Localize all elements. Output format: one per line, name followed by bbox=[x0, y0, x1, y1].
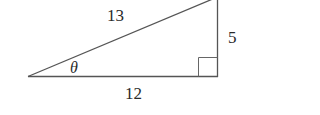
adjacent-label: 12 bbox=[125, 85, 142, 102]
hypotenuse-label: 13 bbox=[107, 7, 124, 24]
right-angle-marker bbox=[199, 58, 218, 77]
angle-theta-label: θ bbox=[70, 60, 78, 76]
opposite-label: 5 bbox=[228, 29, 237, 46]
